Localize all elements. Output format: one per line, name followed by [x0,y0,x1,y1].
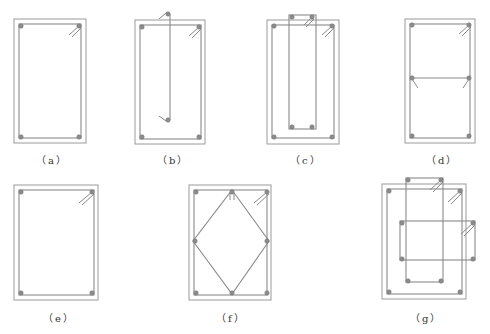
panel-e [14,185,98,300]
rebar [193,239,197,243]
rebar [400,257,404,261]
hook-icon [230,192,269,205]
rebar [265,291,269,295]
panel-d [405,19,475,143]
rebar [410,23,414,27]
rebar [310,125,314,129]
caption-e: （e） [43,310,75,325]
closed-stirrup [272,25,334,138]
rebar [230,291,234,295]
inner-stirrup-vertical [406,178,443,282]
panel-g [382,178,475,299]
section-outline [189,185,271,300]
panel-a [14,19,86,143]
rebar [290,15,294,19]
rebar [471,257,475,261]
rebar [19,291,23,295]
rebar [140,25,144,29]
panel-c [267,15,339,144]
hook-icon [430,180,475,236]
closed-stirrup [387,189,462,294]
hook-icon [412,25,471,88]
closed-stirrup [194,190,267,295]
rebar [194,190,198,194]
hook-icon [159,13,201,121]
rebar [19,24,23,28]
rebar [330,135,334,139]
rebar [194,291,198,295]
closed-stirrup [19,24,81,138]
inner-stirrup-horizontal [400,221,475,260]
rebar [439,279,443,283]
panel-f [189,185,271,300]
rebar [19,135,23,139]
section-outline [267,20,339,144]
rebar [290,125,294,129]
rebar [406,178,410,182]
rebar [272,24,276,28]
section-outline [14,19,86,143]
caption-g: （g） [410,310,442,325]
rebar [406,279,410,283]
stirrup-diagram [0,0,490,334]
panel-b [135,12,205,144]
rebar [19,190,23,194]
caption-c: （c） [290,152,322,167]
rebar [400,221,404,225]
section-outline [405,19,475,143]
closed-stirrup [410,24,470,138]
caption-a: （a） [36,152,68,167]
rebar [90,291,94,295]
rebar [467,134,471,138]
caption-f: （f） [216,310,246,325]
closed-stirrup [19,190,94,295]
rebar [140,135,144,139]
rebar [458,290,462,294]
rebar [197,135,201,139]
rebar [387,290,391,294]
diamond-stirrup [193,190,269,294]
inner-stirrup [289,15,316,129]
rebar [272,135,276,139]
rebar [265,239,269,243]
rebar [410,134,414,138]
caption-d: （d） [426,152,458,167]
rebar [77,135,81,139]
caption-b: （b） [157,152,189,167]
rebar [387,189,391,193]
